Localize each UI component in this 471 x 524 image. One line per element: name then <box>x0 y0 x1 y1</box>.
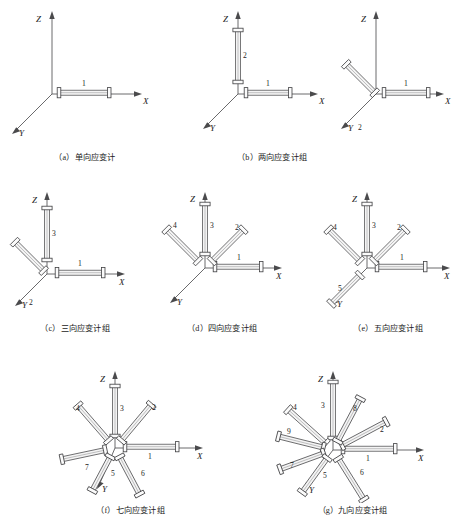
panel-d-caption: （d）四向应变计组 <box>143 321 301 333</box>
gauge-label-7: 7 <box>290 461 294 470</box>
gauge-label-1: 1 <box>366 454 370 463</box>
gauge-1 <box>213 262 263 272</box>
gauge-2 <box>207 225 248 266</box>
panel-b-caption: （b）两向应变计组 <box>198 150 346 162</box>
gauge-label-1: 1 <box>82 79 86 88</box>
gauge-3 <box>200 202 210 256</box>
gauge-label-1: 1 <box>237 253 241 262</box>
axes-b2 <box>341 11 444 129</box>
gauge-2 <box>369 225 410 266</box>
gauge-label-1: 1 <box>400 253 404 262</box>
gauge-label-2: 2 <box>235 223 239 232</box>
axis-label-y: Y <box>177 297 183 307</box>
gauge-label-9: 9 <box>287 427 291 436</box>
panel-b-two-gauge-right: Z X Y 1 2 <box>324 2 471 150</box>
axis-label-x: X <box>443 271 450 281</box>
panel-e-five-gauge: Z X Y 1 3 2 <box>305 186 471 321</box>
axis-label-x: X <box>142 96 149 106</box>
gauge-2 <box>233 28 243 84</box>
gauge-label-1: 1 <box>148 452 152 461</box>
panel-c-caption: （c）三向应变计组 <box>0 321 150 333</box>
gauge-label-7: 7 <box>85 463 89 472</box>
axis-label-x: X <box>417 453 424 463</box>
gauge-label-3: 3 <box>210 221 214 230</box>
gauge-label-8: 8 <box>353 404 357 413</box>
gauge-label-2: 2 <box>29 298 33 307</box>
gauge-1 <box>244 88 292 98</box>
axis-label-z: Z <box>318 374 324 384</box>
panel-d-four-gauge: Z X Y 1 3 2 <box>143 186 301 321</box>
gauge-label-3: 3 <box>321 401 325 410</box>
gauge-2 <box>10 237 48 275</box>
gauge-1 <box>57 88 111 98</box>
axis-label-x: X <box>444 96 451 106</box>
gauge-label-1: 1 <box>266 79 270 88</box>
axis-label-x: X <box>118 277 125 287</box>
gauge-label-5: 5 <box>111 469 115 478</box>
gauge-3 <box>110 384 120 438</box>
axis-label-z: Z <box>223 14 229 24</box>
panel-a-single-gauge: Z X Y 1 （a）单向应变计 <box>0 2 170 150</box>
gauge-label-4: 4 <box>333 223 337 232</box>
strain-gauge-figure-sheet: Z X Y 1 （a）单向应变计 Z X Y <box>0 0 471 524</box>
axes-a <box>12 11 142 134</box>
axis-label-y: Y <box>348 123 354 133</box>
gauge-label-3: 3 <box>120 404 124 413</box>
panel-f-caption: （f）七向应变计组 <box>28 503 233 515</box>
gauge-label-6: 6 <box>141 469 145 478</box>
gauge-label-2: 2 <box>243 51 247 60</box>
axes-c <box>15 192 125 306</box>
gauge-label-5: 5 <box>338 284 342 293</box>
gauge-label-1: 1 <box>404 79 408 88</box>
gauge-label-2: 2 <box>397 223 401 232</box>
gauge-1 <box>341 444 397 454</box>
gauge-4 <box>162 225 203 266</box>
gauge-1 <box>375 262 427 272</box>
panel-g-caption: （g）九向应变计组 <box>245 503 460 515</box>
axis-label-y: Y <box>19 128 25 138</box>
gauge-label-2: 2 <box>152 403 156 412</box>
gauge-1 <box>55 268 105 278</box>
gauge-label-5: 5 <box>323 471 327 480</box>
gauge-7 <box>59 445 108 465</box>
gauge-label-1: 1 <box>78 259 82 268</box>
axis-label-z: Z <box>32 195 38 205</box>
gauge-label-6: 6 <box>360 468 364 477</box>
gauge-label-4: 4 <box>173 221 177 230</box>
gauge-label-4: 4 <box>293 403 297 412</box>
panel-f-seven-gauge: Z X Y 1 3 2 <box>28 358 233 503</box>
gauge-5 <box>327 270 365 308</box>
panel-a-caption: （a）单向应变计 <box>0 150 170 162</box>
gauge-label-2: 2 <box>358 123 362 132</box>
gauge-label-4: 4 <box>76 404 80 413</box>
axis-label-z: Z <box>190 194 196 204</box>
gauge-6 <box>333 454 369 503</box>
axis-label-y: Y <box>22 300 28 310</box>
axis-label-y: Y <box>102 484 108 494</box>
gauge-3 <box>42 206 52 262</box>
gauge-1 <box>382 88 430 98</box>
gauge-label-2: 2 <box>380 425 384 434</box>
gauge-label-3: 3 <box>52 229 56 238</box>
axis-label-y: Y <box>210 123 216 133</box>
gauge-3 <box>362 202 372 256</box>
axis-label-x: X <box>275 271 282 281</box>
axis-label-z: Z <box>361 14 367 24</box>
panel-c-three-gauge: Z X Y 1 3 2 <box>0 186 150 321</box>
gauge-3 <box>328 380 338 440</box>
axis-label-z: Z <box>352 194 358 204</box>
panel-g-nine-gauge: Z X Y 1 3 2 <box>245 358 460 503</box>
gauge-1 <box>123 442 179 452</box>
axis-label-x: X <box>196 451 203 461</box>
gauge-4 <box>324 225 365 266</box>
axis-label-z: Z <box>36 14 42 24</box>
gauge-2 <box>341 59 379 97</box>
gauge-label-3: 3 <box>372 221 376 230</box>
panel-e-caption: （e）五向应变计组 <box>305 321 471 333</box>
axis-label-z: Z <box>100 374 106 384</box>
axes-b <box>203 11 318 129</box>
